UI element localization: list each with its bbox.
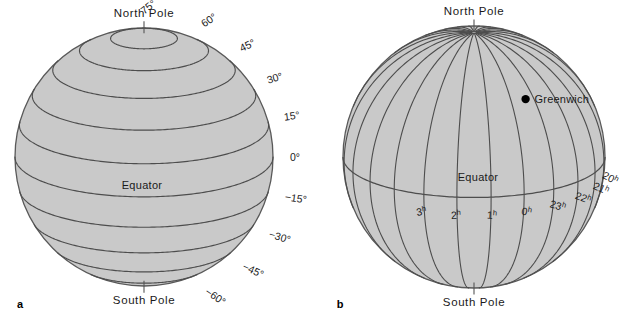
panel-b-north-pole-label: North Pole bbox=[444, 5, 504, 17]
panel-a-lat-label--45: −45° bbox=[241, 260, 266, 280]
panel-a-lat-label-0: 0° bbox=[290, 151, 300, 163]
panel-b-equator-label: Equator bbox=[458, 171, 499, 183]
panel-b-south-pole-label: South Pole bbox=[443, 296, 505, 308]
globe-a bbox=[15, 21, 273, 292]
globes-figure: North PoleSouth PoleEquator75°60°45°30°1… bbox=[0, 0, 633, 327]
panel-a-lat-label--60: −60° bbox=[203, 285, 228, 307]
figure-root: North PoleSouth PoleEquator75°60°45°30°1… bbox=[0, 0, 633, 327]
greenwich-dot bbox=[521, 95, 529, 103]
panel-a-lat-label-45: 45° bbox=[237, 36, 256, 54]
panel-a-lat-label--15: −15° bbox=[284, 190, 308, 205]
panel-b-letter: b bbox=[337, 298, 344, 310]
greenwich-label: Greenwich bbox=[535, 93, 589, 105]
panel-a-lat-label-15: 15° bbox=[283, 109, 300, 123]
panel-a-lat-label-30: 30° bbox=[265, 70, 284, 86]
panel-a-lat-label-60: 60° bbox=[199, 10, 219, 29]
globe-b bbox=[343, 19, 605, 294]
panel-a-letter: a bbox=[17, 298, 24, 310]
panel-a-south-pole-label: South Pole bbox=[113, 294, 175, 306]
panel-a-equator-label: Equator bbox=[122, 179, 163, 191]
panel-a-lat-label--30: −30° bbox=[268, 228, 293, 246]
